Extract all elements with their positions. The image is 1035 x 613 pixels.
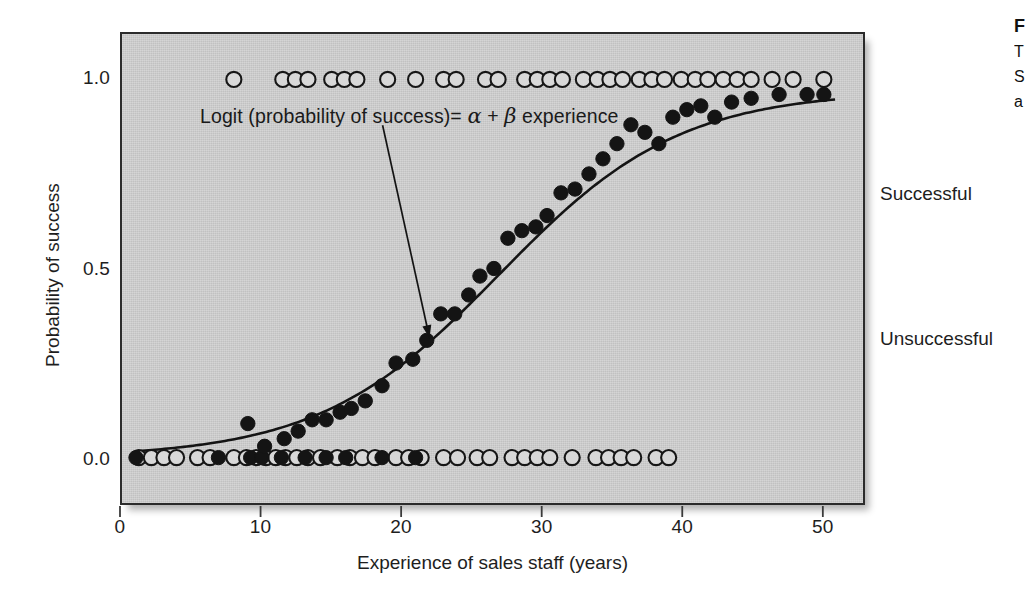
data-point-open <box>576 72 591 87</box>
data-point-filled <box>529 220 543 234</box>
data-point-open <box>615 72 630 87</box>
x-tick-label: 30 <box>531 516 553 538</box>
data-point-filled <box>274 450 288 464</box>
data-point-filled <box>487 261 501 275</box>
data-point-open <box>657 72 672 87</box>
x-tick-label: 10 <box>250 516 272 538</box>
y-tick-label: 0.0 <box>83 448 110 470</box>
caption-heading: F <box>1014 14 1035 39</box>
data-point-open <box>226 72 241 87</box>
figure-root: 01020304050 0.00.51.0 Experience of sale… <box>0 0 1035 613</box>
data-point-open <box>450 450 465 465</box>
data-point-filled <box>624 118 638 132</box>
data-point-filled <box>680 103 694 117</box>
data-point-filled <box>339 450 353 464</box>
data-point-filled <box>772 87 786 101</box>
data-point-open <box>565 450 580 465</box>
data-point-filled <box>596 152 610 166</box>
data-point-open <box>786 72 801 87</box>
data-point-open <box>380 72 395 87</box>
data-point-filled <box>638 125 652 139</box>
alpha-symbol: α <box>467 104 481 128</box>
data-point-filled <box>420 333 434 347</box>
data-point-filled <box>375 379 389 393</box>
figure-caption: F T S a <box>1014 14 1035 114</box>
data-point-filled <box>554 186 568 200</box>
data-point-filled <box>582 167 596 181</box>
data-point-filled <box>744 91 758 105</box>
beta-symbol: β <box>504 104 516 128</box>
data-point-open <box>542 450 557 465</box>
data-point-open <box>816 72 831 87</box>
data-point-filled <box>694 99 708 113</box>
x-tick-label: 50 <box>812 516 834 538</box>
y-axis-tick-labels: 0.00.51.0 <box>62 0 110 613</box>
annotation-leader-line <box>383 125 430 338</box>
data-point-open <box>436 450 451 465</box>
data-point-filled <box>241 416 255 430</box>
data-point-open <box>626 450 641 465</box>
x-tick-label: 0 <box>115 516 126 538</box>
data-point-filled <box>610 137 624 151</box>
data-point-filled <box>277 432 291 446</box>
data-point-open <box>661 450 676 465</box>
data-point-filled <box>817 87 831 101</box>
data-point-filled <box>358 394 372 408</box>
caption-line-2: T <box>1014 39 1035 64</box>
data-point-open <box>700 72 715 87</box>
data-point-open <box>744 72 759 87</box>
data-point-filled <box>462 288 476 302</box>
x-tick-label: 40 <box>671 516 693 538</box>
data-point-open <box>169 450 184 465</box>
data-point-filled <box>515 224 529 238</box>
data-point-filled <box>298 450 312 464</box>
x-axis-title: Experience of sales staff (years) <box>120 552 865 574</box>
y-tick-label: 1.0 <box>83 67 110 89</box>
data-point-filled <box>724 95 738 109</box>
caption-line-4: a <box>1014 89 1035 114</box>
data-point-filled <box>344 401 358 415</box>
data-point-filled <box>408 450 422 464</box>
data-point-filled <box>319 450 333 464</box>
data-point-open <box>555 72 570 87</box>
data-point-filled <box>406 352 420 366</box>
y-tick-label: 0.5 <box>83 258 110 280</box>
data-point-filled <box>708 110 722 124</box>
annotation-leader-group <box>383 125 432 338</box>
x-tick-label: 20 <box>390 516 412 538</box>
data-point-filled <box>257 439 271 453</box>
data-point-filled <box>652 137 666 151</box>
data-point-open <box>408 72 423 87</box>
data-point-filled <box>473 269 487 283</box>
data-point-open <box>765 72 780 87</box>
y-axis-title: Probability of success <box>42 160 64 390</box>
data-point-open <box>349 72 364 87</box>
data-point-filled <box>319 413 333 427</box>
data-point-filled <box>448 307 462 321</box>
data-markers-group <box>129 72 832 465</box>
caption-line-3: S <box>1014 64 1035 89</box>
data-point-open <box>482 450 497 465</box>
data-point-filled <box>540 208 554 222</box>
data-point-filled <box>666 110 680 124</box>
data-point-open <box>449 72 464 87</box>
data-point-open <box>300 72 315 87</box>
data-point-filled <box>375 450 389 464</box>
data-point-filled <box>501 231 515 245</box>
equation-annotation: Logit (probability of success)= α + β ex… <box>200 104 618 128</box>
data-point-filled <box>568 182 582 196</box>
data-point-open <box>491 72 506 87</box>
right-label-successful: Successful <box>880 183 972 205</box>
data-point-filled <box>800 87 814 101</box>
data-point-filled <box>129 450 143 464</box>
data-point-filled <box>434 307 448 321</box>
data-point-filled <box>211 450 225 464</box>
data-point-open <box>674 72 689 87</box>
data-point-open <box>716 72 731 87</box>
right-label-unsuccessful: Unsuccessful <box>880 328 993 350</box>
data-point-filled <box>291 424 305 438</box>
data-point-filled <box>305 413 319 427</box>
data-point-open <box>730 72 745 87</box>
data-point-filled <box>389 356 403 370</box>
plot-panel <box>120 32 865 505</box>
